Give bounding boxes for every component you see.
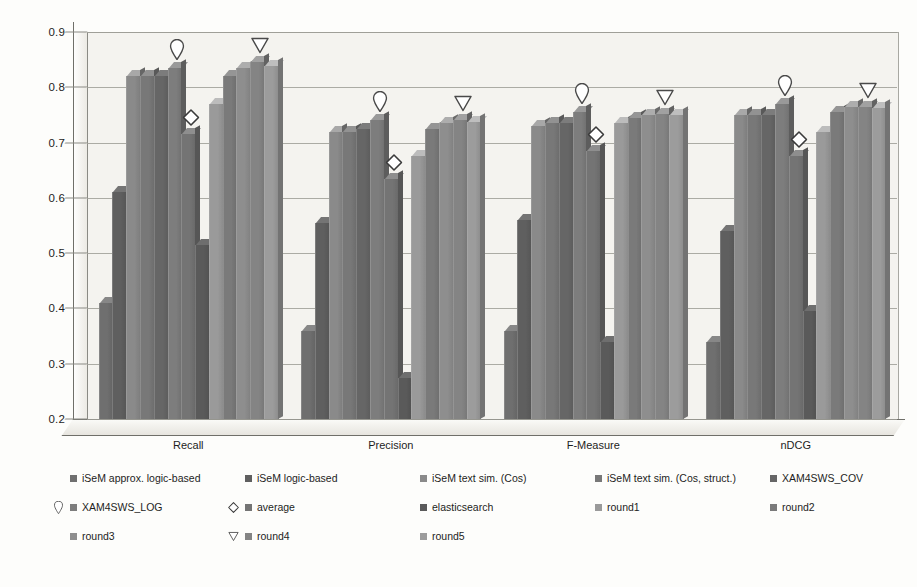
y-axis-tick-mark [64,419,87,420]
x-axis-label: Recall [173,439,204,451]
bar[interactable] [706,342,720,419]
legend-item[interactable]: iSeM text sim. (Cos) [402,472,527,485]
legend-marker-none [227,472,240,485]
bar[interactable] [830,112,844,419]
bar[interactable] [425,129,439,419]
legend-item[interactable]: round5 [402,530,465,543]
y-axis-tick-mark [64,142,87,143]
bar[interactable] [789,156,803,419]
bar[interactable] [195,245,209,419]
bar[interactable] [250,62,264,419]
y-axis-line [73,22,74,421]
y-axis-tick-label: 0.8 [48,81,65,93]
bar[interactable] [181,134,195,419]
legend-item[interactable]: round2 [752,501,815,514]
legend-label: round2 [782,502,815,513]
legend-color-swatch [420,533,427,540]
bar-face [356,129,371,419]
bar[interactable] [775,104,789,419]
legend-item[interactable]: iSeM text sim. (Cos, struct.) [577,472,736,485]
bar[interactable] [844,107,858,419]
bar-side-face [683,106,688,419]
bar[interactable] [858,107,872,419]
bar[interactable] [384,179,398,419]
bar[interactable] [720,231,734,419]
bar[interactable] [126,76,140,419]
bar-groups [87,32,897,419]
bar-face [706,342,721,419]
bar[interactable] [504,331,518,419]
legend-item[interactable]: iSeM approx. logic-based [52,472,200,485]
bar[interactable] [586,151,600,419]
legend-label: round3 [82,531,115,542]
bar[interactable] [329,132,343,419]
legend-color-swatch [70,504,77,511]
bar[interactable] [545,123,559,419]
triangle-down-marker-icon [227,530,240,543]
legend-item[interactable]: XAM4SWS_COV [752,472,863,485]
legend-item[interactable]: iSeM logic-based [227,472,338,485]
legend-item[interactable]: elasticsearch [402,501,493,514]
bar[interactable] [734,115,748,419]
legend-marker-none [577,472,590,485]
bar[interactable] [99,303,113,419]
bar[interactable] [559,123,573,419]
bar[interactable] [573,112,587,419]
y-axis-tick-label: 0.6 [48,192,65,204]
y-axis-tick-label: 0.4 [48,302,65,314]
teardrop-marker-icon [52,501,65,514]
bar[interactable] [301,331,315,419]
legend-label: XAM4SWS_COV [782,473,863,484]
legend-color-swatch [70,533,77,540]
bar[interactable] [370,120,384,419]
y-axis-tick-label: 0.2 [48,413,65,425]
bar[interactable] [112,192,126,419]
plot-area: 0.20.30.40.50.60.70.80.9 RecallPrecision… [87,32,897,419]
legend-item[interactable]: XAM4SWS_LOG [52,501,163,514]
bar[interactable] [614,123,628,419]
bar[interactable] [342,132,356,419]
bar[interactable] [467,122,481,419]
bar[interactable] [641,115,655,419]
bar[interactable] [453,120,467,419]
bar-face [140,76,155,419]
legend-item[interactable]: round1 [577,501,640,514]
bar[interactable] [315,223,329,419]
bar[interactable] [236,68,250,419]
bar-face [614,123,629,419]
bar[interactable] [209,104,223,419]
legend-item[interactable]: average [227,501,295,514]
y-axis-tick-mark [64,32,87,33]
bar[interactable] [154,76,168,419]
bar[interactable] [628,118,642,419]
chart-floor [62,419,905,436]
bar[interactable] [223,76,237,419]
bar[interactable] [655,114,669,419]
legend-color-swatch [595,475,602,482]
bar-face [126,76,141,419]
bar[interactable] [803,311,817,419]
bar[interactable] [168,68,182,419]
bar-face [669,115,684,419]
bar[interactable] [356,129,370,419]
bar[interactable] [747,115,761,419]
bar[interactable] [669,115,683,419]
bar-group [99,32,278,419]
bar[interactable] [140,76,154,419]
bar[interactable] [411,156,425,419]
legend-item[interactable]: round4 [227,530,290,543]
bar[interactable] [439,123,453,419]
bar[interactable] [398,378,412,419]
bar[interactable] [872,108,886,419]
bar-group [706,32,885,419]
bar[interactable] [264,66,278,419]
legend-item[interactable]: round3 [52,530,115,543]
bar-group [504,32,683,419]
legend-label: iSeM logic-based [257,473,338,484]
bar[interactable] [517,220,531,419]
bar[interactable] [531,126,545,419]
bar[interactable] [761,115,775,419]
bar-face [250,62,265,419]
bar[interactable] [816,132,830,419]
bar[interactable] [600,342,614,419]
